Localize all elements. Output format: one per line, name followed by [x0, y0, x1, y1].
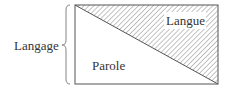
langage-label: Langage — [14, 39, 59, 52]
langue-label: Langue — [166, 14, 205, 27]
parole-label: Parole — [92, 59, 125, 72]
curly-brace — [62, 5, 70, 84]
